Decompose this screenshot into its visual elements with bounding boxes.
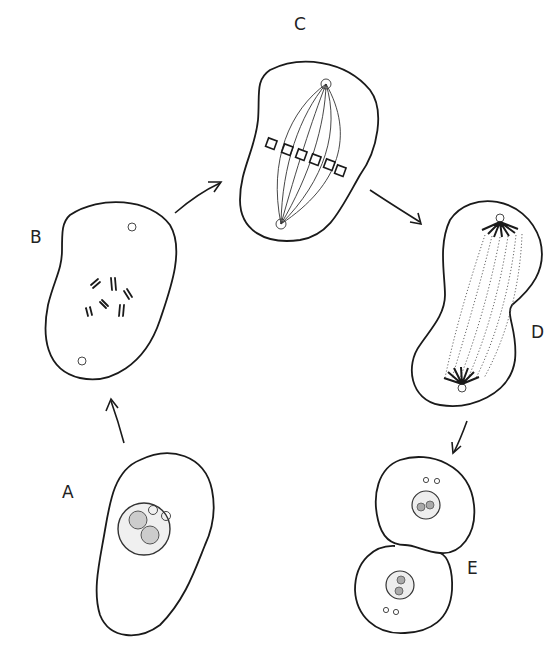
- centrosome-icon: [128, 223, 136, 231]
- arrow-b-to-c: [175, 182, 221, 213]
- stage-label-b: B: [30, 227, 42, 247]
- stage-label-a: A: [62, 482, 74, 502]
- cell-a: [97, 453, 214, 635]
- chromatids-top: [482, 222, 518, 237]
- chromosomes: [86, 278, 132, 316]
- arrow-a-to-b: [106, 399, 124, 443]
- stage-label-e: E: [467, 558, 478, 578]
- cell-c: [240, 62, 378, 241]
- stage-label-c: C: [294, 14, 306, 34]
- mitosis-diagram: [0, 0, 547, 652]
- metaphase-chromosomes: [266, 138, 347, 177]
- arrow-c-to-d: [370, 190, 421, 224]
- centrosome-icon: [458, 384, 466, 392]
- centrosome-icon: [78, 357, 86, 365]
- cell-b: [46, 202, 177, 379]
- cell-d: [412, 201, 542, 406]
- cell-e: [355, 457, 474, 633]
- stage-label-d: D: [531, 322, 544, 342]
- arrow-d-to-e: [452, 421, 467, 453]
- chromatids-bottom: [444, 367, 479, 384]
- centrosome-icon: [496, 214, 504, 222]
